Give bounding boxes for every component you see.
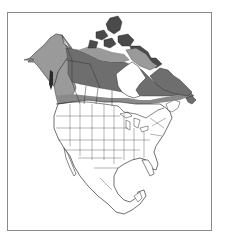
conterminous-usa-mexico <box>54 100 172 214</box>
north-america-range-map <box>0 0 225 235</box>
maritime-provinces <box>166 100 180 112</box>
